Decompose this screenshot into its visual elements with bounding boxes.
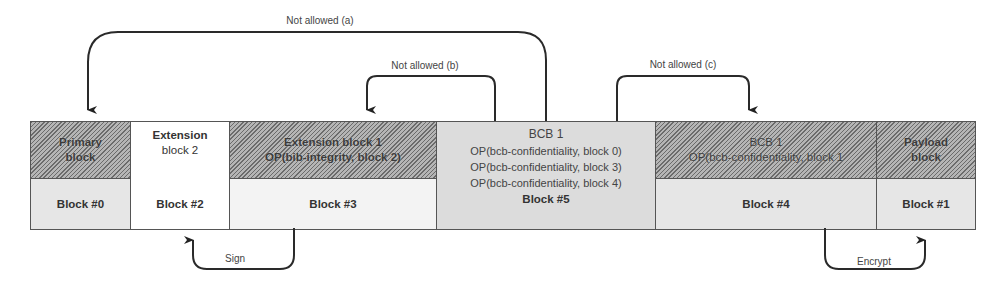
block-1-title: Payload (904, 135, 948, 150)
payload-block-header: Payload block (877, 122, 975, 179)
block-2-subtitle: block 2 (162, 143, 198, 158)
block-4: BCB 1 OP(bcb-confidentiality, block 1 Bl… (656, 122, 877, 229)
block-1-number: Block #1 (877, 179, 975, 229)
label-not-allowed-b: Not allowed (b) (391, 60, 458, 71)
arrow-not-allowed-b (367, 76, 495, 121)
block-4-op: OP(bcb-confidentiality, block 1 (689, 150, 843, 165)
block-5-title: BCB 1 (529, 126, 564, 143)
label-sign: Sign (225, 253, 245, 264)
bcb-1-content: BCB 1 OP(bcb-confidentiality, block 0) O… (437, 126, 655, 207)
label-encrypt: Encrypt (857, 256, 891, 267)
block-0-subtitle: block (65, 150, 95, 165)
block-3-number: Block #3 (230, 179, 436, 229)
block-4-title: BCB 1 (749, 135, 782, 150)
bundle-blocks: Primary block Block #0 Extension block 2… (30, 121, 976, 230)
extension-block-2-header: Extension block 2 (131, 122, 229, 184)
extension-block-1-header: Extension block 1 OP(bib-integrity, bloc… (230, 122, 436, 179)
block-5: BCB 1 OP(bcb-confidentiality, block 0) O… (437, 122, 656, 229)
block-0: Primary block Block #0 (31, 122, 131, 229)
label-not-allowed-c: Not allowed (c) (650, 59, 717, 70)
label-not-allowed-a: Not allowed (a) (286, 15, 353, 26)
block-2: Extension block 2 Block #2 (131, 122, 230, 229)
block-0-title: Primary (59, 135, 102, 150)
block-5-op-3: OP(bcb-confidentiality, block 3) (470, 159, 621, 175)
bcb-1-encrypted-header: BCB 1 OP(bcb-confidentiality, block 1 (656, 122, 876, 179)
block-3-op: OP(bib-integrity, block 2) (265, 150, 401, 165)
arrow-not-allowed-c (617, 76, 749, 121)
block-1: Payload block Block #1 (877, 122, 976, 229)
block-3: Extension block 1 OP(bib-integrity, bloc… (230, 122, 437, 229)
block-3-title: Extension block 1 (284, 135, 382, 150)
block-0-number: Block #0 (31, 179, 130, 229)
block-4-number: Block #4 (656, 179, 876, 229)
block-5-op-0: OP(bcb-confidentiality, block 0) (470, 143, 621, 159)
block-1-subtitle: block (911, 150, 941, 165)
arrow-not-allowed-a (88, 32, 546, 121)
primary-block-header: Primary block (31, 122, 130, 179)
block-5-op-4: OP(bcb-confidentiality, block 4) (470, 175, 621, 191)
block-2-title: Extension (153, 128, 208, 143)
block-5-number: Block #5 (522, 191, 569, 207)
block-2-number: Block #2 (131, 179, 229, 229)
